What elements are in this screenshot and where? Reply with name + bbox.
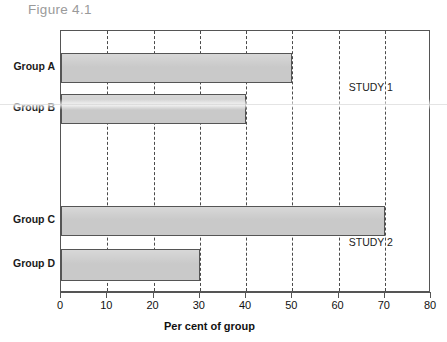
x-axis-title-text: Per cent of group: [164, 320, 255, 332]
gridline-70: [385, 31, 386, 291]
bar-group-c[interactable]: [61, 206, 385, 236]
category-label-group-a: Group A: [13, 60, 55, 72]
x-tick-label-0: 0: [57, 299, 63, 311]
x-tick-60: [338, 292, 339, 298]
x-tick-label-30: 30: [193, 299, 205, 311]
x-tick-label-40: 40: [239, 299, 251, 311]
bar-highlight: [62, 207, 384, 220]
bar-group-b[interactable]: [61, 94, 246, 124]
bar-group-d[interactable]: [61, 249, 200, 281]
x-tick-20: [153, 292, 154, 298]
x-axis-title: Per cent of group: [0, 320, 447, 332]
x-tick-label-20: 20: [146, 299, 158, 311]
x-tick-label-50: 50: [285, 299, 297, 311]
bar-highlight: [62, 54, 291, 67]
category-label-group-c: Group C: [13, 213, 55, 225]
category-label-group-d: Group D: [13, 257, 55, 269]
x-tick-label-10: 10: [100, 299, 112, 311]
figure-title: Figure 4.1: [28, 2, 92, 17]
chart-plot-area: STUDY 1STUDY 2: [60, 30, 430, 292]
x-tick-40: [245, 292, 246, 298]
x-tick-80: [430, 292, 431, 298]
x-tick-label-60: 60: [331, 299, 343, 311]
bar-group-a[interactable]: [61, 53, 292, 83]
bar-highlight: [62, 95, 245, 108]
x-tick-label-70: 70: [378, 299, 390, 311]
x-tick-70: [384, 292, 385, 298]
x-tick-10: [106, 292, 107, 298]
chart-plot-inner: STUDY 1STUDY 2: [61, 31, 429, 291]
x-tick-0: [60, 292, 61, 298]
annotation-study-2: STUDY 2: [349, 236, 393, 248]
figure-container: Figure 4.1 STUDY 1STUDY 2 Group AGroup B…: [0, 0, 447, 342]
x-tick-50: [291, 292, 292, 298]
gridline-60: [339, 31, 340, 291]
bar-highlight: [62, 250, 199, 264]
x-tick-label-80: 80: [424, 299, 436, 311]
x-tick-30: [199, 292, 200, 298]
category-label-group-b: Group B: [13, 101, 55, 113]
annotation-study-1: STUDY 1: [349, 81, 393, 93]
gridline-50: [292, 31, 293, 291]
